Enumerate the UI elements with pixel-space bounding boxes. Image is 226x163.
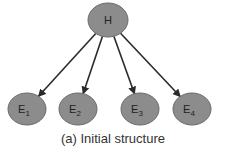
node-E4: E4 [173, 93, 211, 125]
nodes: HE1E2E3E4 [8, 3, 211, 125]
node-E2: E2 [59, 93, 97, 125]
figure-caption: (a) Initial structure [0, 131, 226, 146]
node-E1: E1 [8, 93, 46, 125]
node-E3: E3 [121, 93, 159, 125]
edge-H-E1 [39, 33, 96, 96]
node-H: H [88, 3, 128, 37]
edge-H-E4 [121, 33, 181, 96]
edges [39, 33, 181, 96]
node-label: H [104, 14, 112, 26]
